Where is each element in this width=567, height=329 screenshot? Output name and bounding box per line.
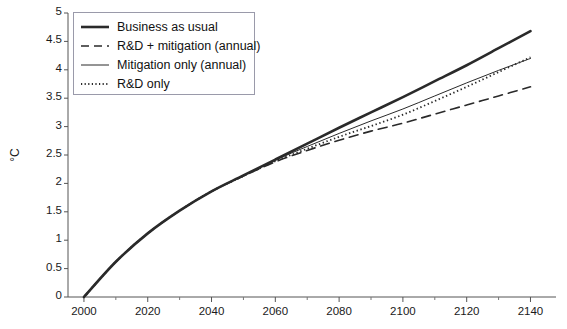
x-tick-label: 2060 — [245, 305, 305, 317]
climate-temperature-chart: 00.511.522.533.544.55 200020202040206020… — [0, 0, 567, 329]
x-tick-label: 2040 — [182, 305, 242, 317]
x-tick-label: 2000 — [54, 305, 114, 317]
x-tick-label: 2100 — [373, 305, 433, 317]
y-tick-label: 4.5 — [22, 33, 62, 45]
legend-key-business-as-usual — [80, 20, 110, 34]
x-tick-label: 2140 — [500, 305, 560, 317]
legend-item: R&D only — [74, 74, 254, 93]
legend-key-rd-only — [80, 77, 110, 91]
chart-legend: Business as usual R&D + mitigation (annu… — [73, 12, 255, 95]
legend-item: R&D + mitigation (annual) — [74, 36, 254, 55]
x-tick-label: 2020 — [118, 305, 178, 317]
y-tick-label: 1 — [22, 232, 62, 244]
y-tick-label: 5 — [22, 5, 62, 17]
x-tick-label: 2080 — [309, 305, 369, 317]
y-tick-label: 0.5 — [22, 261, 62, 273]
y-tick-label: 2 — [22, 175, 62, 187]
legend-key-mitigation-only — [80, 58, 110, 72]
y-tick-label: 3.5 — [22, 90, 62, 102]
x-axis-ticks — [84, 297, 531, 302]
y-tick-label: 2.5 — [22, 147, 62, 159]
x-tick-label: 2120 — [437, 305, 497, 317]
legend-item: Business as usual — [74, 17, 254, 36]
legend-label-rd-only: R&D only — [117, 77, 170, 91]
y-tick-label: 0 — [22, 289, 62, 301]
y-axis-ticks — [64, 13, 68, 297]
series-line — [84, 87, 531, 297]
legend-label-mitigation-only: Mitigation only (annual) — [117, 58, 246, 72]
legend-item: Mitigation only (annual) — [74, 55, 254, 74]
legend-label-rd-plus-mitigation: R&D + mitigation (annual) — [117, 39, 260, 53]
y-axis-title: °C — [8, 142, 22, 168]
legend-key-rd-plus-mitigation — [80, 39, 110, 53]
y-tick-label: 1.5 — [22, 204, 62, 216]
legend-label-business-as-usual: Business as usual — [117, 20, 218, 34]
y-tick-label: 3 — [22, 119, 62, 131]
y-tick-label: 4 — [22, 62, 62, 74]
